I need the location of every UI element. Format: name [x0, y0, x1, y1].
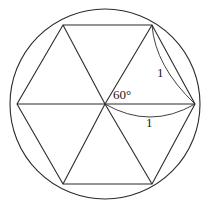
- radius-to-vertex-southeast: [105, 104, 152, 184]
- geometry-canvas: [0, 0, 207, 210]
- radius-to-vertex-southwest: [63, 104, 105, 184]
- radius-to-vertex-northwest: [63, 25, 105, 104]
- central-angle-label: 60°: [113, 88, 131, 101]
- geometry-figure: 60° 1 1: [0, 0, 207, 210]
- side-length-label: 1: [157, 66, 164, 79]
- radius-length-label: 1: [146, 116, 153, 129]
